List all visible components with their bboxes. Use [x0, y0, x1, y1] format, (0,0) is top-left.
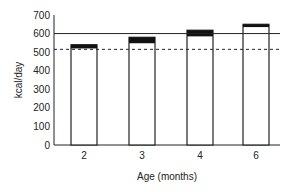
x-tick-label: 2: [81, 150, 87, 161]
y-tick-label: 200: [33, 102, 50, 113]
y-tick-label: 0: [44, 140, 50, 151]
y-tick-label: 400: [33, 65, 50, 76]
bar-cap-3: [129, 37, 155, 43]
y-axis-title-text: kcal/day: [13, 62, 24, 99]
bar-4: [187, 30, 213, 145]
bar-6: [243, 24, 269, 145]
y-tick-label: 600: [33, 28, 50, 39]
y-tick-label: 300: [33, 84, 50, 95]
bar-2: [71, 45, 97, 145]
bar-3: [129, 37, 155, 145]
x-tick-label: 4: [197, 150, 203, 161]
x-axis-title-text: Age (months): [137, 171, 197, 182]
bar-cap-2: [71, 45, 97, 49]
y-tick-label: 700: [33, 10, 50, 21]
x-tick-label: 3: [139, 150, 145, 161]
y-tick-label: 500: [33, 47, 50, 58]
y-tick-label: 100: [33, 121, 50, 132]
x-tick-label: 6: [253, 150, 259, 161]
bar-chart: 01002003004005006007002346Age (months)kc…: [0, 0, 299, 192]
bar-cap-6: [243, 24, 269, 27]
